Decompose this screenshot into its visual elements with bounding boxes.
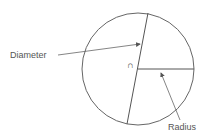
radius-label: Radius [168,123,196,132]
radius-pointer-arrow [161,73,180,120]
circle-diagram [0,0,209,138]
diameter-label: Diameter [10,51,47,60]
center-point-symbol: ∩ [127,61,133,70]
diameter-pointer-arrow [58,44,140,55]
